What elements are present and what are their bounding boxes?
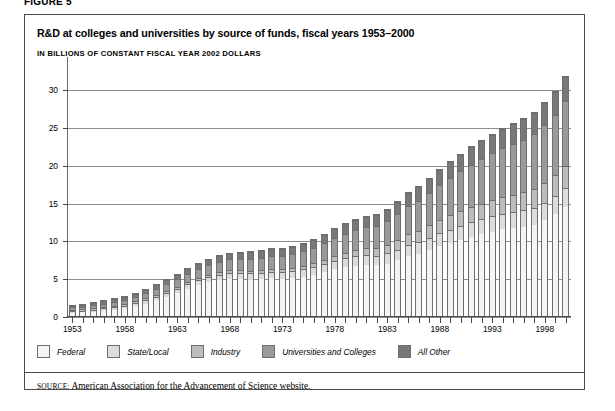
stacked-bar[interactable]	[216, 255, 223, 317]
stacked-bar[interactable]	[436, 169, 443, 317]
bar-column[interactable]	[193, 75, 204, 317]
bar-column[interactable]	[508, 75, 519, 317]
bar-column[interactable]	[561, 75, 572, 317]
stacked-bar[interactable]	[111, 298, 118, 317]
stacked-bar[interactable]	[405, 192, 412, 317]
stacked-bar[interactable]	[174, 274, 181, 317]
bar-column[interactable]	[225, 75, 236, 317]
bar-column[interactable]	[109, 75, 120, 317]
stacked-bar[interactable]	[258, 250, 265, 317]
stacked-bar[interactable]	[279, 248, 286, 317]
legend-item[interactable]: Industry	[191, 345, 241, 358]
bar-column[interactable]	[498, 75, 509, 317]
bar-column[interactable]	[246, 75, 257, 317]
bar-column[interactable]	[151, 75, 162, 317]
stacked-bar[interactable]	[142, 289, 149, 317]
bar-column[interactable]	[162, 75, 173, 317]
stacked-bar[interactable]	[153, 284, 160, 317]
stacked-bar[interactable]	[184, 268, 191, 317]
stacked-bar[interactable]	[552, 91, 559, 317]
bar-column[interactable]	[477, 75, 488, 317]
stacked-bar[interactable]	[100, 300, 107, 317]
bar-column[interactable]	[540, 75, 551, 317]
bar-column[interactable]	[309, 75, 320, 317]
bar-column[interactable]	[277, 75, 288, 317]
legend-item[interactable]: State/Local	[107, 345, 169, 358]
bar-column[interactable]	[519, 75, 530, 317]
bar-column[interactable]	[445, 75, 456, 317]
stacked-bar[interactable]	[195, 263, 202, 317]
stacked-bar[interactable]	[562, 76, 569, 317]
bar-column[interactable]	[435, 75, 446, 317]
stacked-bar[interactable]	[226, 253, 233, 318]
stacked-bar[interactable]	[331, 228, 338, 317]
legend-item[interactable]: Universities and Colleges	[262, 345, 376, 358]
stacked-bar[interactable]	[510, 123, 517, 317]
bar-column[interactable]	[130, 75, 141, 317]
bar-column[interactable]	[424, 75, 435, 317]
stacked-bar[interactable]	[499, 128, 506, 317]
stacked-bar[interactable]	[205, 259, 212, 317]
bar-column[interactable]	[361, 75, 372, 317]
bar-column[interactable]	[172, 75, 183, 317]
stacked-bar[interactable]	[300, 243, 307, 317]
stacked-bar[interactable]	[90, 302, 97, 317]
stacked-bar[interactable]	[489, 134, 496, 317]
stacked-bar[interactable]	[373, 214, 380, 317]
stacked-bar[interactable]	[478, 140, 485, 317]
bar-segment	[563, 207, 568, 316]
bar-column[interactable]	[414, 75, 425, 317]
stacked-bar[interactable]	[352, 219, 359, 317]
stacked-bar[interactable]	[310, 239, 317, 317]
stacked-bar[interactable]	[468, 146, 475, 317]
bar-column[interactable]	[141, 75, 152, 317]
bar-column[interactable]	[330, 75, 341, 317]
stacked-bar[interactable]	[163, 279, 170, 317]
bar-column[interactable]	[204, 75, 215, 317]
stacked-bar[interactable]	[342, 223, 349, 317]
bar-column[interactable]	[456, 75, 467, 317]
bar-column[interactable]	[99, 75, 110, 317]
stacked-bar[interactable]	[520, 118, 527, 317]
stacked-bar[interactable]	[363, 216, 370, 317]
bar-column[interactable]	[529, 75, 540, 317]
legend-item[interactable]: Federal	[37, 345, 85, 358]
bar-column[interactable]	[372, 75, 383, 317]
bar-column[interactable]	[88, 75, 99, 317]
bar-column[interactable]	[235, 75, 246, 317]
bar-column[interactable]	[466, 75, 477, 317]
legend-item[interactable]: All Other	[398, 345, 450, 358]
stacked-bar[interactable]	[541, 102, 548, 317]
stacked-bar[interactable]	[268, 248, 275, 317]
bar-column[interactable]	[550, 75, 561, 317]
bar-column[interactable]	[393, 75, 404, 317]
stacked-bar[interactable]	[447, 161, 454, 317]
bar-column[interactable]	[183, 75, 194, 317]
bar-column[interactable]	[298, 75, 309, 317]
bar-column[interactable]	[340, 75, 351, 317]
bar-column[interactable]	[256, 75, 267, 317]
stacked-bar[interactable]	[415, 186, 422, 317]
stacked-bar[interactable]	[237, 252, 244, 317]
bar-column[interactable]	[319, 75, 330, 317]
bar-column[interactable]	[120, 75, 131, 317]
stacked-bar[interactable]	[531, 112, 538, 317]
stacked-bar[interactable]	[121, 296, 128, 317]
bar-column[interactable]	[78, 75, 89, 317]
bar-column[interactable]	[214, 75, 225, 317]
stacked-bar[interactable]	[132, 293, 139, 317]
bar-column[interactable]	[403, 75, 414, 317]
stacked-bar[interactable]	[247, 251, 254, 317]
stacked-bar[interactable]	[457, 154, 464, 318]
bar-column[interactable]	[288, 75, 299, 317]
stacked-bar[interactable]	[321, 234, 328, 317]
bar-column[interactable]	[267, 75, 278, 317]
stacked-bar[interactable]	[384, 209, 391, 317]
bar-column[interactable]	[487, 75, 498, 317]
bar-column[interactable]	[382, 75, 393, 317]
stacked-bar[interactable]	[426, 178, 433, 317]
bar-column[interactable]	[351, 75, 362, 317]
stacked-bar[interactable]	[394, 201, 401, 317]
stacked-bar[interactable]	[289, 246, 296, 317]
bar-column[interactable]	[67, 75, 78, 317]
